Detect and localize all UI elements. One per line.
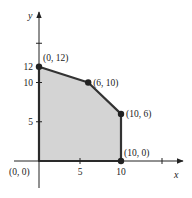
y-tick-label: 10 [24, 78, 34, 88]
x-tick-label: 10 [116, 167, 126, 177]
y-tick-label: 12 [24, 62, 34, 72]
y-axis-label: y [27, 10, 33, 21]
origin-label: (0, 0) [9, 167, 30, 178]
vertex-point [85, 79, 91, 85]
vertex-label: (10, 6) [126, 109, 151, 120]
y-tick-label: 5 [28, 117, 33, 127]
vertex-label: (10, 0) [124, 148, 149, 159]
vertex-label: (6, 10) [93, 78, 118, 89]
vertex-point [118, 111, 124, 117]
feasible-region-chart: xy51051012(0, 12)(6, 10)(10, 6)(10, 0)(0… [0, 0, 192, 198]
vertex-point [118, 158, 124, 164]
x-axis-label: x [173, 169, 179, 180]
x-tick-label: 5 [78, 167, 83, 177]
vertex-point [36, 64, 42, 70]
vertex-label: (0, 12) [43, 53, 68, 64]
